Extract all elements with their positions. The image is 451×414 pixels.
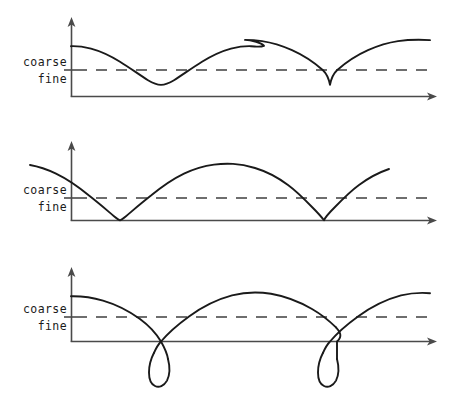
curve-common-cycloid <box>30 164 389 221</box>
panel-common-cycloid: coarse fine <box>23 141 437 224</box>
cycloid-diagram-canvas: coarse fine coarse fine <box>0 0 451 414</box>
prolate-curve-group <box>71 292 430 386</box>
curve-curtate-cycloid <box>71 40 430 85</box>
label-coarse-panel2: coarse <box>23 183 67 197</box>
panel-curtate-cycloid: coarse fine <box>23 17 437 100</box>
panel-prolate-cycloid: coarse fine <box>23 267 437 387</box>
label-fine-panel2: fine <box>38 200 67 214</box>
cycloid-figure: coarse fine coarse fine <box>0 0 451 414</box>
prolate-arch-b-rise <box>154 292 336 352</box>
prolate-loop-2 <box>318 353 338 387</box>
prolate-loop-1 <box>149 353 169 387</box>
label-fine-panel1: fine <box>38 72 67 86</box>
prolate-arch-c-rise <box>323 293 430 353</box>
label-fine-panel3: fine <box>38 319 67 333</box>
prolate-arch-a-descent <box>71 296 168 359</box>
label-coarse-panel3: coarse <box>23 302 67 316</box>
label-coarse-panel1: coarse <box>23 55 67 69</box>
